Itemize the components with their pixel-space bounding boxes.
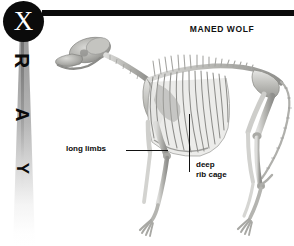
- xray-infographic-page: X R A Y MANED WOLF: [0, 0, 294, 246]
- long-limbs-leader-line: [126, 150, 168, 151]
- callout-label-deep-rib-cage-line2: rib cage: [196, 170, 227, 180]
- skeleton-hind-legs: [238, 94, 272, 235]
- callout-label-deep-rib-cage-line1: deep: [196, 160, 227, 170]
- deep-rib-cage-leader-line: [189, 114, 190, 172]
- skeleton-cervical-vertebrae: [106, 55, 148, 80]
- xray-badge-circle: X: [3, 1, 44, 42]
- xray-vertical-letter-y: Y: [14, 160, 31, 178]
- xray-masthead: X R A Y: [0, 0, 48, 246]
- skeleton-front-paw-near: [140, 220, 153, 236]
- xray-badge-letter-x: X: [3, 1, 44, 42]
- callout-label-deep-rib-cage: deep rib cage: [196, 160, 227, 180]
- xray-vertical-letter-r: R: [12, 50, 33, 72]
- skeleton-hind-paw-near: [238, 219, 252, 235]
- maned-wolf-skeleton-illustration: [48, 28, 294, 246]
- header-divider-rule: [42, 10, 294, 16]
- skeleton-skull-group: [56, 33, 114, 69]
- xray-vertical-letter-a: A: [13, 105, 32, 125]
- callout-label-long-limbs: long limbs: [66, 144, 106, 154]
- skeleton-svg: [48, 28, 294, 246]
